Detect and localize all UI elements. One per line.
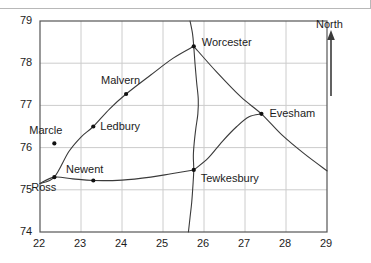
x-tick-26: 26 <box>197 238 209 249</box>
town-label-newent: Newent <box>66 164 103 175</box>
y-tick-74: 74 <box>20 226 32 237</box>
x-tick-29: 29 <box>320 238 332 249</box>
gridlines <box>40 21 327 232</box>
town-label-evesham: Evesham <box>269 108 315 119</box>
x-tick-25: 25 <box>156 238 168 249</box>
y-tick-79: 79 <box>20 15 32 26</box>
route-lines <box>40 21 327 232</box>
route-ross-newent-tewkesbury <box>40 170 194 184</box>
town-marker-tewkesbury <box>192 168 196 172</box>
north-arrow-icon <box>327 30 335 96</box>
town-label-tewkesbury: Tewkesbury <box>201 173 259 184</box>
town-label-malvern: Malvern <box>101 75 140 86</box>
town-label-worcester: Worcester <box>202 37 252 48</box>
town-marker-worcester <box>192 44 196 48</box>
town-marker-ledbury <box>91 124 95 128</box>
y-tick-76: 76 <box>20 142 32 153</box>
plot-frame <box>40 21 327 232</box>
x-tick-24: 24 <box>115 238 127 249</box>
town-marker-evesham <box>259 112 263 116</box>
town-label-ross: Ross <box>31 182 56 193</box>
town-marker-newent <box>91 178 95 182</box>
town-marker-marcle <box>52 141 56 145</box>
route-ross-ledbury-malvern-worcester <box>40 46 194 183</box>
map-figure: North 2223242526272829747576777879 Worce… <box>0 0 371 263</box>
town-label-ledbury: Ledbury <box>100 121 140 132</box>
x-tick-28: 28 <box>279 238 291 249</box>
plot-border <box>40 21 327 232</box>
x-tick-27: 27 <box>238 238 250 249</box>
x-tick-22: 22 <box>33 238 45 249</box>
y-tick-77: 77 <box>20 99 32 110</box>
north-label: North <box>316 18 343 30</box>
town-marker-malvern <box>124 92 128 96</box>
y-tick-78: 78 <box>20 57 32 68</box>
town-markers <box>52 44 263 182</box>
x-tick-23: 23 <box>74 238 86 249</box>
town-label-marcle: Marcle <box>29 125 62 136</box>
route-river-severn <box>188 21 198 232</box>
town-marker-ross <box>52 175 56 179</box>
